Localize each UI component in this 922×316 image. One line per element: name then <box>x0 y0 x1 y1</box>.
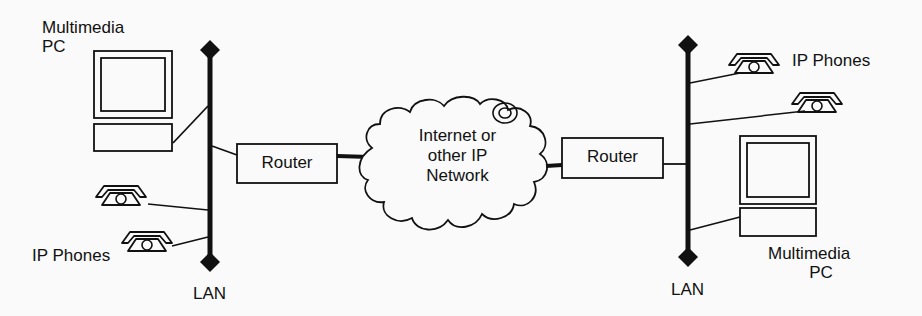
left-router-label: Router <box>237 153 337 173</box>
right-router-label: Router <box>562 147 663 167</box>
lan-terminator-icon <box>678 247 698 267</box>
left-pc-icon <box>94 51 208 151</box>
left-lan-label: LAN <box>193 284 226 303</box>
right-lan-label: LAN <box>671 280 704 299</box>
left-phone-2-icon <box>122 232 208 251</box>
right-pc-icon <box>690 136 816 236</box>
network-label: Internet or other IP Network <box>400 126 515 186</box>
network-label-line1: Internet or <box>419 126 497 145</box>
right-pc-label: MultimediaPC <box>768 244 850 282</box>
right-phone-1-icon <box>690 54 779 83</box>
left-phone-1-icon <box>96 186 208 210</box>
network-label-line2: other IP <box>428 146 488 165</box>
left-phones-label: IP Phones <box>32 246 110 265</box>
network-label-line3: Network <box>426 166 488 185</box>
right-pc-label-line1: Multimedia <box>768 244 850 263</box>
left-pc-label-line1: Multimedia <box>42 18 124 37</box>
left-lan-bus <box>200 40 220 272</box>
right-pc-label-line2: PC <box>785 263 833 282</box>
left-pc-label: MultimediaPC <box>42 18 124 56</box>
right-phones-label: IP Phones <box>792 51 870 70</box>
lan-terminator-icon <box>678 35 698 55</box>
right-lan-bus <box>678 35 698 267</box>
left-pc-label-line2: PC <box>42 37 66 56</box>
lan-terminator-icon <box>200 252 220 272</box>
lan-terminator-icon <box>200 40 220 60</box>
right-phone-2-icon <box>690 93 842 124</box>
